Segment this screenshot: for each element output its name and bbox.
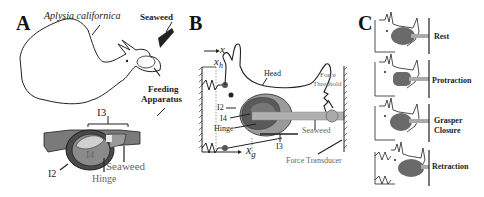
label-force-transducer: Force Transducer	[286, 157, 342, 165]
xg-arrow-head	[238, 150, 242, 154]
phase-label-protraction: Protraction	[432, 77, 471, 85]
label-i3: I3	[97, 107, 106, 118]
panel-letter-b: B	[189, 13, 202, 33]
label-species: Aplysia californica	[44, 11, 120, 21]
arrow-species	[92, 25, 100, 35]
phase-grasper-closure-drawing	[375, 98, 429, 142]
phase-label-closure: Closure	[434, 127, 461, 135]
eye-dot	[126, 60, 128, 62]
force-threshold-knob	[326, 110, 338, 122]
arrow-feeding	[154, 68, 160, 76]
arrow-force-threshold	[328, 100, 333, 108]
head-spring	[202, 80, 224, 90]
label-seaweed-top: Seaweed	[140, 13, 173, 22]
phase-label-grasper: Grasper	[434, 117, 462, 125]
panel-a: A Aplysia californica Seaweed Feeding Ap…	[0, 0, 180, 197]
label-i2: I2	[48, 169, 56, 179]
eye-dot	[229, 93, 234, 98]
label-head: Head	[264, 70, 281, 78]
label-seaweed-bottom: Seaweed	[106, 161, 145, 172]
arrow-force-transducer	[318, 140, 342, 154]
label-seaweed: Seaweed	[302, 127, 330, 135]
phase-protraction-drawing	[375, 54, 429, 98]
label-i4: I4	[220, 115, 227, 123]
label-i2: I2	[217, 104, 224, 112]
label-xh-sub: h	[219, 61, 223, 70]
label-i4: I4	[86, 150, 94, 160]
arrow-zoom	[157, 108, 165, 116]
arrow-i2	[60, 164, 68, 170]
label-apparatus: Apparatus	[141, 95, 182, 104]
label-xg: xg	[246, 144, 256, 159]
label-force-threshold-2: Threshold	[313, 81, 341, 88]
label-hinge: Hinge	[92, 174, 116, 184]
i3-bracket	[88, 124, 128, 127]
seaweed-strip	[158, 28, 174, 48]
phase-label-retraction: Retraction	[432, 163, 468, 171]
experimental-setup-drawing	[180, 0, 355, 197]
phase-retraction-drawing	[375, 142, 429, 186]
phase-rest-drawing	[375, 12, 429, 54]
label-xg-sub: g	[251, 149, 256, 159]
seaweed-highlight	[106, 135, 112, 142]
feeding-apparatus-shape	[137, 56, 155, 68]
label-i3: I3	[276, 143, 283, 151]
panel-b: B x xh Head Force Threshold I2 I4 Hinge …	[180, 0, 355, 197]
label-x: x	[220, 44, 225, 55]
label-feeding: Feeding	[148, 85, 179, 94]
label-force-threshold-1: Force	[320, 72, 336, 79]
arrow-head	[262, 78, 267, 86]
panel-c: C	[355, 0, 484, 197]
label-hinge: Hinge	[214, 125, 234, 133]
panel-letter-a: A	[16, 13, 30, 33]
label-xh: xh	[214, 56, 223, 70]
phase-label-rest: Rest	[434, 33, 449, 41]
grasper-spring-anchor	[222, 145, 228, 151]
